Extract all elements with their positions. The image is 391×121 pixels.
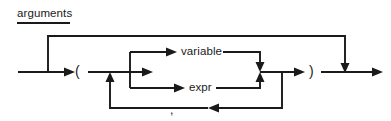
terminal-left-paren: ( xyxy=(75,64,80,78)
variable-branch-out-rail xyxy=(223,52,260,62)
entry-arrowhead xyxy=(64,68,75,77)
expr-branch-out-rail xyxy=(216,82,260,88)
variable-merge-arrowhead xyxy=(256,62,265,72)
expr-merge-arrowhead xyxy=(256,72,265,82)
railroad-diagram: arguments ( ) xyxy=(0,0,391,121)
terminal-right-paren: ) xyxy=(309,64,314,78)
nonterminal-expr: expr xyxy=(189,81,212,94)
comma-loop-right-rail xyxy=(219,72,282,108)
nonterminal-variable: variable xyxy=(181,45,222,58)
exit-arrowhead xyxy=(372,68,383,77)
variable-arrowhead xyxy=(166,48,177,57)
comma-loop-return-arrowhead xyxy=(106,72,115,82)
comma-loop-arrowhead xyxy=(208,104,219,113)
fork-entry-arrowhead xyxy=(142,68,153,77)
expr-arrowhead xyxy=(174,84,185,93)
rparen-arrowhead xyxy=(294,68,305,77)
railroad-track-svg xyxy=(0,0,391,121)
terminal-comma: , xyxy=(170,104,173,116)
